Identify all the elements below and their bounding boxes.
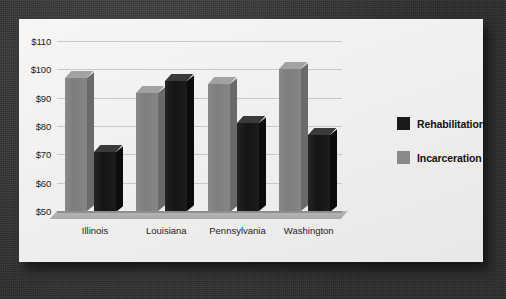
bar-front-face (237, 123, 259, 211)
bar-rehabilitation-illinois (94, 152, 116, 212)
legend-label-incarceration: Incarceration (417, 152, 482, 164)
bar-incarceration-louisiana (136, 93, 158, 211)
x-axis-label-illinois: Illinois (82, 225, 108, 236)
x-axis-label-louisiana: Louisiana (146, 225, 187, 236)
y-axis-tick-label: $110 (31, 36, 51, 47)
chart-card: $50$60$70$80$90$100$110 IllinoisLouisian… (19, 19, 483, 262)
bar-front-face (94, 152, 116, 212)
gridline (57, 41, 342, 42)
bar-side-face (158, 88, 165, 211)
legend-item-incarceration: Incarceration (397, 151, 485, 164)
bar-front-face (165, 81, 187, 211)
bar-chart-plot-area: $50$60$70$80$90$100$110 IllinoisLouisian… (57, 41, 337, 211)
bar-rehabilitation-washington (308, 135, 330, 212)
baseline-axis-line (57, 211, 342, 213)
legend-item-rehabilitation: Rehabilitation (397, 117, 485, 130)
y-axis-tick-label: $80 (36, 121, 51, 132)
bar-incarceration-washington (279, 69, 301, 211)
legend-swatch-rehabilitation-icon (397, 117, 410, 130)
y-axis-tick-label: $70 (36, 149, 51, 160)
bar-front-face (308, 135, 330, 212)
y-axis-tick-label: $90 (36, 92, 51, 103)
bar-front-face (279, 69, 301, 211)
bar-rehabilitation-pennsylvania (237, 123, 259, 211)
chart-card-surface: $50$60$70$80$90$100$110 IllinoisLouisian… (19, 19, 483, 262)
chart-legend: Rehabilitation Incarceration (397, 117, 485, 185)
bar-front-face (136, 93, 158, 211)
bar-side-face (301, 63, 308, 211)
bar-front-face (65, 78, 87, 211)
bar-side-face (259, 117, 266, 211)
bar-incarceration-pennsylvania (208, 84, 230, 212)
bar-front-face (208, 84, 230, 212)
x-axis-label-pennsylvania: Pennsylvania (209, 225, 266, 236)
bar-side-face (230, 78, 237, 211)
legend-label-rehabilitation: Rehabilitation (417, 118, 485, 130)
legend-swatch-incarceration-icon (397, 151, 410, 164)
bar-incarceration-illinois (65, 78, 87, 211)
y-axis-tick-label: $50 (36, 206, 51, 217)
bar-side-face (330, 129, 337, 211)
bar-side-face (87, 72, 94, 211)
y-axis-tick-label: $100 (31, 64, 51, 75)
bar-rehabilitation-louisiana (165, 81, 187, 211)
x-axis-label-washington: Washington (284, 225, 334, 236)
bar-side-face (187, 75, 194, 211)
bar-side-face (116, 146, 123, 211)
y-axis-tick-label: $60 (36, 177, 51, 188)
